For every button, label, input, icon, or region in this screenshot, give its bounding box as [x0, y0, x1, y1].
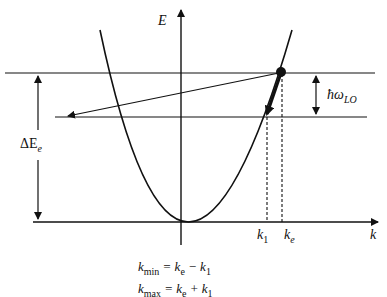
k-range-formulas: kmin = ke − k1 kmax = ke + k1 — [138, 258, 213, 297]
kmin-formula: kmin = ke − k1 — [138, 258, 213, 280]
e-axis-label: E — [158, 14, 167, 28]
parabola-curve — [100, 30, 292, 222]
emission-arrow — [267, 73, 281, 114]
ke-label: ke — [284, 228, 295, 245]
dispersion-diagram — [0, 0, 387, 297]
k-axis-label: k — [370, 228, 376, 242]
delta-e-label: ΔEe — [20, 137, 42, 154]
k1-label: k1 — [257, 228, 268, 245]
scattering-arrow-left — [68, 73, 279, 116]
electron-dot — [276, 67, 286, 77]
kmax-formula: kmax = ke + k1 — [138, 280, 213, 297]
phonon-energy-label: ħωLO — [327, 88, 357, 105]
